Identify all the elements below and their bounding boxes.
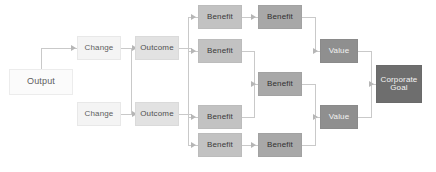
edge-benefit-b1-out [302,17,316,18]
edge-benefit-a3-out [242,117,255,118]
node-corporate-goal[interactable]: Corporate Goal [376,65,422,103]
node-output[interactable]: Output [9,69,73,95]
node-outcome-b-label: Outcome [136,110,178,118]
edge-value-bottom-bus [315,84,316,117]
node-outcome-a-label: Outcome [136,44,178,52]
node-benefit-b1[interactable]: Benefit [258,5,302,29]
edge-benefit-b3-out [302,145,316,146]
node-benefit-b1-label: Benefit [259,13,301,21]
node-benefit-a1-label: Benefit [199,13,241,21]
node-value-bottom-label: Value [321,113,357,121]
node-value-top-label: Value [321,47,357,55]
node-benefit-a3[interactable]: Benefit [198,105,242,129]
arrowhead-benefit-b1 [251,14,256,20]
arrowhead-value-top [313,48,318,54]
arrowhead-benefit-b2 [251,81,256,87]
edge-benefit-b2-out [302,84,316,85]
node-benefit-b3[interactable]: Benefit [258,133,302,157]
node-value-bottom[interactable]: Value [320,105,358,129]
arrowhead-benefit-b3 [251,142,256,148]
node-benefit-b2-label: Benefit [259,80,301,88]
node-change-b[interactable]: Change [77,102,121,126]
edge-value-bottom-out [358,117,372,118]
node-outcome-a[interactable]: Outcome [135,36,179,60]
arrowhead-benefit-a4 [191,142,196,148]
node-change-b-label: Change [78,110,120,118]
edge-benefit-b3-riser [315,117,316,145]
node-benefit-b2[interactable]: Benefit [258,72,302,96]
node-change-a[interactable]: Change [77,36,121,60]
node-outcome-b[interactable]: Outcome [135,102,179,126]
node-benefit-a3-label: Benefit [199,113,241,121]
arrowhead-benefit-a3 [191,114,196,120]
diagram-canvas: Output Change Change Outcome Outcome Ben… [0,0,436,172]
node-value-top[interactable]: Value [320,39,358,63]
edge-value-top-out [358,51,372,52]
arrowhead-goal [369,81,374,87]
node-output-label: Output [10,77,72,86]
node-benefit-a2[interactable]: Benefit [198,39,242,63]
node-change-a-label: Change [78,44,120,52]
arrowhead-change-a [71,45,76,51]
arrowhead-benefit-a1 [191,14,196,20]
edge-benefit-bus [188,17,189,145]
node-benefit-a1[interactable]: Benefit [198,5,242,29]
node-benefit-a2-label: Benefit [199,47,241,55]
node-benefit-a4[interactable]: Benefit [198,133,242,157]
node-benefit-a4-label: Benefit [199,141,241,149]
edge-change-column-bus [131,48,132,114]
arrowhead-benefit-a2 [191,48,196,54]
node-corporate-goal-label-line2: Goal [376,84,422,92]
node-benefit-b3-label: Benefit [259,141,301,149]
